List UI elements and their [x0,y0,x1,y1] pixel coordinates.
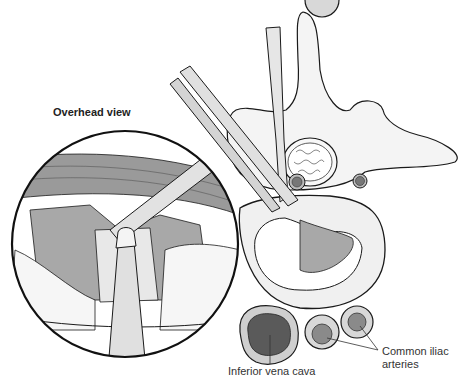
label-common-iliac-line1: Common iliac [382,345,449,358]
inset-title: Overhead view [53,106,131,119]
label-inferior-vena-cava: Inferior vena cava [228,365,315,378]
label-common-iliac-line2: arteries [382,358,419,371]
illustration [0,0,465,381]
intervertebral-disc [239,195,385,308]
overhead-inset [0,131,240,370]
